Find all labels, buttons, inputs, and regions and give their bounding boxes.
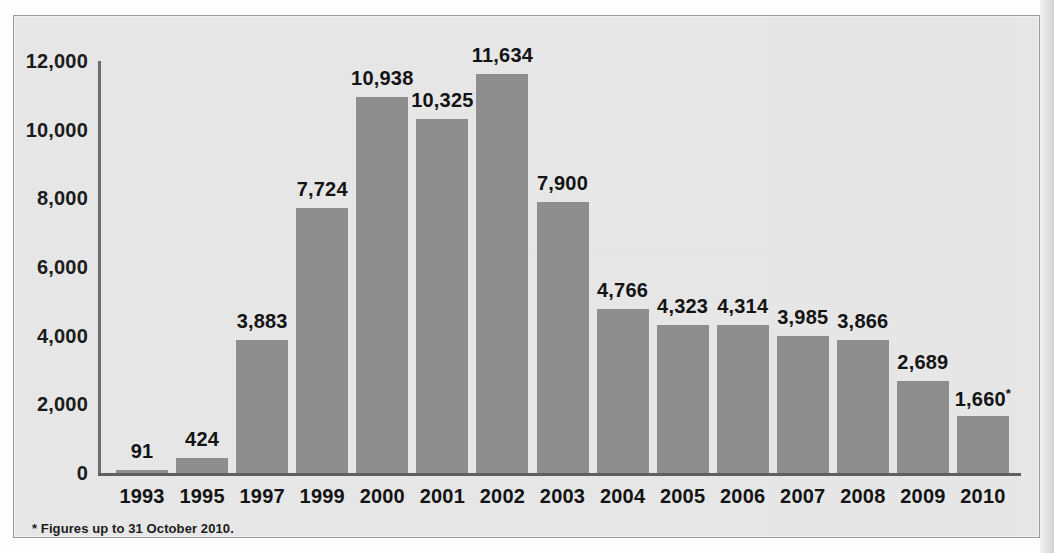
y-axis-tick-label: 4,000 xyxy=(0,324,88,347)
y-axis-tick-label: 6,000 xyxy=(0,256,88,279)
bar xyxy=(176,458,228,473)
bar xyxy=(657,325,709,473)
bar xyxy=(537,202,589,473)
y-axis-tick-label: 8,000 xyxy=(0,187,88,210)
bar xyxy=(476,74,528,473)
bar-chart-plot: 02,0004,0006,0008,00010,00012,000 914243… xyxy=(14,16,1041,539)
x-axis-line xyxy=(98,473,1021,476)
bar-value-label: 7,900 xyxy=(503,172,623,195)
y-axis-tick-label: 0 xyxy=(0,462,88,485)
x-axis-tick-label: 2010 xyxy=(933,485,1033,508)
bar xyxy=(957,416,1009,473)
y-axis-line xyxy=(98,61,101,476)
bar xyxy=(356,97,408,473)
page-canvas: 02,0004,0006,0008,00010,00012,000 914243… xyxy=(0,0,1054,553)
bar xyxy=(236,340,288,473)
page-edge-shadow xyxy=(1040,0,1054,553)
bar xyxy=(777,336,829,473)
bar xyxy=(717,325,769,473)
footnote-marker: * xyxy=(1006,386,1011,401)
bar-value-label: 2,689 xyxy=(863,351,983,374)
bar xyxy=(116,470,168,473)
bar xyxy=(597,309,649,473)
y-axis-tick-label: 12,000 xyxy=(0,50,88,73)
y-axis-tick-label: 10,000 xyxy=(0,118,88,141)
bar-value-label: 10,938 xyxy=(322,67,442,90)
bar-value-label: 11,634 xyxy=(442,44,562,67)
bar xyxy=(416,119,468,473)
bar xyxy=(296,208,348,473)
bar-value-label: 1,660* xyxy=(923,386,1043,411)
bar-value-label: 3,866 xyxy=(803,310,923,333)
y-axis-tick-label: 2,000 xyxy=(0,393,88,416)
chart-panel: 02,0004,0006,0008,00010,00012,000 914243… xyxy=(13,15,1040,538)
chart-footnote: * Figures up to 31 October 2010. xyxy=(32,521,234,536)
